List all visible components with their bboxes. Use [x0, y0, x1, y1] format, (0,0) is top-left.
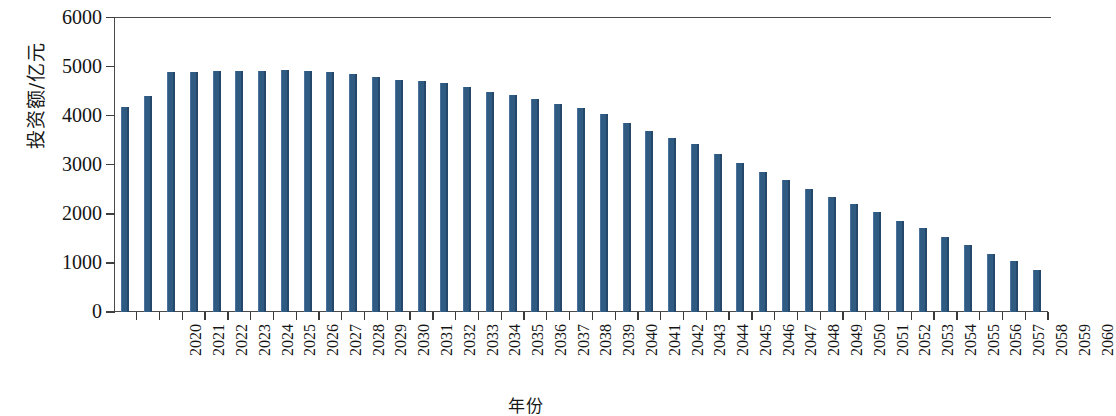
x-axis-tick	[660, 312, 661, 320]
x-axis-tick-label: 2044	[735, 324, 751, 380]
bar	[668, 138, 676, 312]
bar	[850, 204, 858, 312]
x-axis-tick-label: 2042	[690, 324, 706, 380]
x-axis-tick	[615, 312, 616, 320]
x-axis-tick-label: 2060	[1100, 324, 1116, 380]
y-axis-tick-label: 1000	[14, 252, 102, 272]
x-axis-tick-label: 2032	[462, 324, 478, 380]
x-axis-tick-label: 2026	[325, 324, 341, 380]
x-axis-tick-label: 2039	[621, 324, 637, 380]
x-axis-tick	[364, 312, 365, 320]
x-axis-tick	[1047, 312, 1048, 320]
x-axis-tick	[204, 312, 205, 320]
x-axis-tick-label: 2058	[1054, 324, 1070, 380]
bar	[395, 80, 403, 312]
x-axis-tick-label: 2027	[348, 324, 364, 380]
x-axis-tick-label: 2025	[302, 324, 318, 380]
x-axis-tick-label: 2029	[393, 324, 409, 380]
bar	[509, 95, 517, 312]
x-axis-tick	[387, 312, 388, 320]
x-axis-tick	[1025, 312, 1026, 320]
x-axis-tick-label: 2033	[485, 324, 501, 380]
x-axis-tick-label: 2049	[849, 324, 865, 380]
x-axis-tick	[432, 312, 433, 320]
y-axis-tick-label: 4000	[14, 105, 102, 125]
x-axis-tick-label: 2035	[530, 324, 546, 380]
y-axis-tick-label: 2000	[14, 203, 102, 223]
x-axis-tick	[296, 312, 297, 320]
x-axis-tick-label: 2030	[416, 324, 432, 380]
bar	[418, 81, 426, 312]
y-axis-tick	[106, 262, 115, 263]
bar	[600, 114, 608, 312]
y-axis-tick	[106, 311, 115, 312]
bar	[964, 245, 972, 312]
plot-top-border	[114, 17, 1051, 18]
bar	[782, 180, 790, 312]
x-axis-tick	[455, 312, 456, 320]
bar	[805, 189, 813, 312]
x-axis-tick	[501, 312, 502, 320]
x-axis-tick	[933, 312, 934, 320]
x-axis-tick-label: 2041	[667, 324, 683, 380]
x-axis-tick-label: 2024	[280, 324, 296, 380]
y-axis-tick-label: 0	[14, 301, 102, 321]
bar	[304, 71, 312, 312]
y-axis-tick-label: 3000	[14, 154, 102, 174]
x-axis-tick-label: 2031	[439, 324, 455, 380]
y-axis-tick-label: 6000	[14, 7, 102, 27]
x-axis-tick-label: 2036	[553, 324, 569, 380]
x-axis-tick	[136, 312, 137, 320]
bar	[531, 99, 539, 312]
x-axis-tick	[227, 312, 228, 320]
x-axis-tick	[318, 312, 319, 320]
x-axis-tick-label: 2040	[644, 324, 660, 380]
x-axis-tick	[797, 312, 798, 320]
bar	[919, 228, 927, 312]
x-axis-tick-label: 2037	[576, 324, 592, 380]
bar	[167, 72, 175, 312]
bar	[213, 71, 221, 312]
x-axis-tick	[911, 312, 912, 320]
x-axis-tick	[751, 312, 752, 320]
x-axis-tick	[409, 312, 410, 320]
y-axis-tick	[106, 213, 115, 214]
x-axis-tick	[273, 312, 274, 320]
y-axis-title: 投资额/亿元	[21, 16, 48, 176]
bar	[873, 212, 881, 312]
x-axis-tick	[706, 312, 707, 320]
x-axis-tick-label: 2021	[211, 324, 227, 380]
bar	[190, 72, 198, 312]
bar	[372, 77, 380, 312]
bar	[691, 144, 699, 312]
bar	[326, 72, 334, 312]
x-axis-tick	[956, 312, 957, 320]
bar	[235, 71, 243, 312]
x-axis-tick	[728, 312, 729, 320]
bar	[987, 254, 995, 312]
bar	[941, 237, 949, 312]
x-axis-tick-label: 2051	[895, 324, 911, 380]
bar	[463, 87, 471, 312]
y-axis-tick	[106, 164, 115, 165]
bar	[258, 71, 266, 312]
bar	[144, 96, 152, 312]
bar	[1033, 270, 1041, 312]
x-axis-tick	[478, 312, 479, 320]
x-axis-tick-label: 2046	[781, 324, 797, 380]
x-axis-tick-label: 2038	[598, 324, 614, 380]
x-axis-tick-label: 2022	[234, 324, 250, 380]
x-axis-tick	[820, 312, 821, 320]
x-axis-tick	[888, 312, 889, 320]
x-axis-tick-label: 2052	[917, 324, 933, 380]
x-axis-tick-label: 2023	[257, 324, 273, 380]
bar	[828, 197, 836, 312]
x-axis-tick	[683, 312, 684, 320]
bar	[349, 74, 357, 312]
bar	[577, 108, 585, 312]
x-axis-tick-label: 2055	[986, 324, 1002, 380]
x-axis-tick-label: 2043	[712, 324, 728, 380]
bar	[645, 131, 653, 312]
x-axis-tick	[1002, 312, 1003, 320]
